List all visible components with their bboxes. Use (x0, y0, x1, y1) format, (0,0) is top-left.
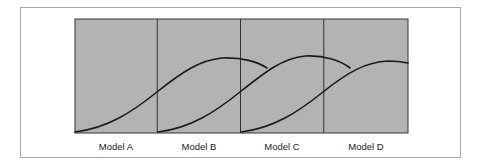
plot-area-background (75, 19, 408, 133)
category-label-model-b: Model B (182, 141, 217, 152)
category-label-model-d: Model D (348, 141, 384, 152)
category-label-model-a: Model A (99, 141, 134, 152)
category-label-model-c: Model C (264, 141, 300, 152)
figure-root: Model A Model B Model C Model D (0, 0, 481, 166)
s-curve-chart: Model A Model B Model C Model D (0, 0, 481, 166)
chart-svg: Model A Model B Model C Model D (0, 0, 481, 166)
